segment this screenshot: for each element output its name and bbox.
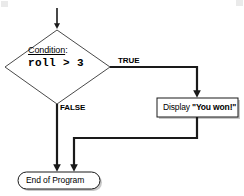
true-branch-connector xyxy=(110,67,197,94)
decision-label-word: Condition xyxy=(28,45,65,55)
flowchart-graphics xyxy=(0,0,244,196)
edge-label-true: TRUE xyxy=(118,57,139,65)
display-box-text: Display "You won!" xyxy=(163,103,236,112)
decision-expression: roll > 3 xyxy=(28,58,84,69)
terminal-box-text: End of Program xyxy=(26,176,84,185)
edge-label-false: FALSE xyxy=(60,104,85,112)
decision-label-colon: : xyxy=(65,45,67,55)
flowchart-canvas: Condition: roll > 3 TRUE FALSE Display "… xyxy=(0,0,244,196)
display-box-text-quoted: "You won!" xyxy=(192,102,236,112)
merge-connector xyxy=(74,117,197,168)
decision-label: Condition: xyxy=(28,46,68,55)
display-box-text-prefix: Display xyxy=(163,102,192,112)
